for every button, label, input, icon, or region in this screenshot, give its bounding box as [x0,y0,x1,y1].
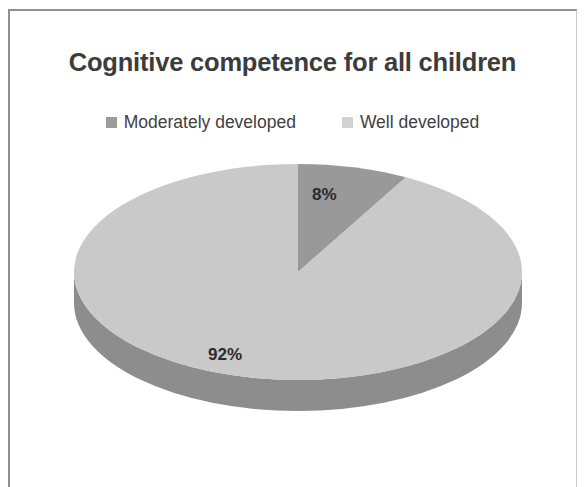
pie-body [74,164,522,411]
slice-label-well-developed: 92% [208,345,242,365]
slice-label-moderately-developed: 8% [312,185,337,205]
